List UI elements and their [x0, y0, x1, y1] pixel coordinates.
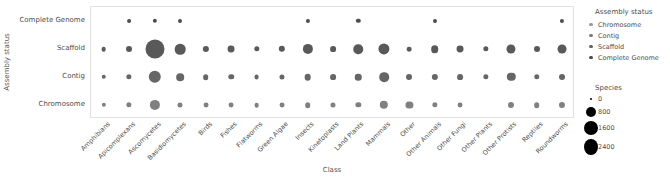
- bubble-point: [560, 19, 564, 23]
- bubble-point: [254, 103, 259, 108]
- bubble-point: [406, 101, 413, 108]
- circle-icon: [589, 34, 593, 38]
- y-tick-label: Scaffold: [57, 44, 85, 52]
- legend-swatch-cell: [584, 56, 598, 60]
- bubble-point: [304, 74, 311, 81]
- bubble-point: [559, 74, 565, 80]
- bubble-point: [380, 101, 388, 109]
- circle-icon: [590, 98, 592, 100]
- x-axis-tick-labels: AmphibiansApicomplexansAscomycetesBasidi…: [90, 120, 574, 168]
- size-legend-label: 800: [598, 108, 610, 116]
- color-legend-label: Scaffold: [598, 43, 624, 51]
- bubble-point: [407, 47, 412, 52]
- color-legend-title: Assembly status: [595, 8, 670, 16]
- bubble-point: [431, 45, 439, 53]
- bubble-point: [559, 102, 565, 108]
- color-legend: Assembly status ChromosomeContigScaffold…: [584, 8, 670, 63]
- legend-swatch-cell: [584, 45, 598, 49]
- color-legend-item[interactable]: Scaffold: [584, 41, 670, 52]
- bubble-point: [101, 47, 106, 52]
- bubble-point: [483, 46, 488, 51]
- bubble-point: [148, 71, 160, 83]
- bubble-point: [507, 44, 516, 53]
- bubble-point: [175, 44, 186, 55]
- bubble-point: [178, 19, 182, 23]
- size-legend-item[interactable]: 800: [584, 105, 670, 118]
- x-tick-label: Reptiles: [520, 120, 544, 144]
- bubble-point: [356, 102, 361, 107]
- bubble-point: [483, 74, 488, 79]
- size-legend-item[interactable]: 0: [584, 94, 670, 104]
- circle-icon: [584, 121, 598, 135]
- y-axis-title: Assembly status: [0, 6, 14, 118]
- color-legend-item[interactable]: Chromosome: [584, 19, 670, 30]
- bubble-point: [432, 102, 437, 107]
- bubble-point: [102, 103, 106, 107]
- bubble-point: [432, 74, 438, 80]
- bubble-point: [330, 46, 336, 52]
- circle-icon: [584, 139, 598, 155]
- bubble-point: [254, 75, 259, 80]
- size-legend-label: 1600: [598, 124, 615, 132]
- bubble-point: [203, 74, 209, 80]
- bubble-point: [203, 103, 208, 108]
- x-tick-label: Mammals: [364, 120, 392, 148]
- bubble-point: [280, 103, 285, 108]
- bubble-chart: Assembly status Complete GenomeScaffoldC…: [0, 0, 670, 185]
- x-tick-label: Fishes: [219, 120, 239, 140]
- bubble-point: [507, 73, 515, 81]
- bubble-point: [534, 102, 540, 108]
- bubble-point: [305, 19, 309, 23]
- circle-icon: [589, 23, 593, 27]
- color-legend-item[interactable]: Contig: [584, 30, 670, 41]
- y-tick-label: Complete Genome: [19, 16, 85, 24]
- color-legend-label: Contig: [598, 32, 619, 40]
- circle-icon: [589, 56, 593, 60]
- size-legend-label: 0: [598, 95, 602, 103]
- bubble-point: [279, 46, 285, 52]
- bubble-point: [330, 102, 335, 107]
- legend-size-cell: [584, 107, 598, 117]
- x-tick-label: Insects: [293, 120, 315, 142]
- bubble-point: [457, 46, 464, 53]
- bubble-point: [203, 46, 209, 52]
- color-legend-label: Complete Genome: [598, 54, 659, 62]
- bubble-point: [534, 46, 540, 52]
- legend-size-cell: [584, 139, 598, 155]
- bubble-point: [379, 72, 389, 82]
- bubble-point: [126, 46, 132, 52]
- bubble-point: [176, 73, 184, 81]
- bubble-point: [228, 46, 235, 53]
- bubble-point: [356, 19, 360, 23]
- bubble-point: [280, 74, 285, 79]
- bubble-point: [127, 19, 131, 23]
- bubble-point: [302, 44, 312, 54]
- bubble-point: [354, 44, 364, 54]
- size-legend-item[interactable]: 2400: [584, 137, 670, 156]
- bubble-point: [457, 74, 463, 80]
- y-axis-title-wrap: Assembly status: [0, 6, 14, 118]
- circle-icon: [586, 107, 596, 117]
- bubble-point: [433, 19, 437, 23]
- color-legend-item[interactable]: Complete Genome: [584, 52, 670, 63]
- y-tick-label: Chromosome: [39, 100, 86, 108]
- bubble-point: [534, 74, 539, 79]
- bubble-point: [508, 102, 514, 108]
- bubble-point: [355, 74, 362, 81]
- bubble-point: [254, 46, 259, 51]
- bubble-point: [305, 102, 311, 108]
- size-legend: Species 080016002400: [584, 84, 670, 158]
- bubble-point: [153, 19, 157, 23]
- size-legend-label: 2400: [598, 143, 615, 151]
- size-legend-title: Species: [595, 84, 670, 92]
- bubble-point: [178, 102, 183, 107]
- size-legend-item[interactable]: 1600: [584, 119, 670, 136]
- bubble-point: [145, 40, 164, 59]
- bubble-point: [150, 100, 160, 110]
- bubble-point: [330, 74, 336, 80]
- legend-size-cell: [584, 98, 598, 100]
- bubble-point: [127, 102, 132, 107]
- plot-area: [90, 6, 574, 118]
- legend-swatch-cell: [584, 23, 598, 27]
- circle-icon: [589, 45, 593, 49]
